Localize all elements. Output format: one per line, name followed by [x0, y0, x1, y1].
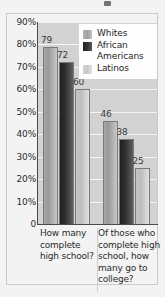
y-axis-tick-60: 60% — [2, 84, 36, 94]
y-axis-tick-90: 90% — [2, 17, 36, 27]
y-axis-tick-80: 80% — [2, 39, 36, 49]
bar-group-0-series-1 — [59, 62, 74, 224]
y-axis-tick-40: 40% — [2, 129, 36, 139]
chart-legend: WhitesAfricanAmericansLatinos — [79, 24, 157, 79]
y-axis-tick-20: 20% — [2, 174, 36, 184]
legend-label-0: Whites — [97, 28, 127, 39]
y-axis-tick-10: 10% — [2, 197, 36, 207]
chart-figure: 90%80%70%60%50%40%30%20%10%0 79726046382… — [0, 0, 165, 297]
legend-label-1: AfricanAmericans — [97, 40, 144, 62]
x-axis-category-labels: How many complete high school? Of those … — [38, 228, 158, 294]
y-axis-tick-30: 30% — [2, 152, 36, 162]
bar-value-label-1-1: 38 — [117, 127, 128, 137]
bar-group-0-series-2 — [75, 89, 90, 224]
y-axis-tick-labels: 90%80%70%60%50%40%30%20%10%0 — [0, 0, 36, 297]
title-artifact — [104, 1, 111, 6]
legend-swatch-icon-1 — [83, 42, 92, 51]
bar-group-1-series-0 — [103, 121, 118, 224]
bar-group-0-series-0 — [43, 47, 58, 224]
legend-label-2: Latinos — [97, 63, 129, 74]
gridline-90 — [38, 22, 157, 23]
x-axis-label-group-1: Of those who complete high school, how m… — [98, 228, 160, 286]
y-axis-tick-0: 0 — [2, 219, 36, 229]
x-axis-line — [37, 224, 158, 225]
bar-group-1-series-1 — [119, 139, 134, 224]
bar-value-label-0-1: 72 — [57, 50, 68, 60]
legend-item-1: AfricanAmericans — [83, 40, 154, 62]
legend-item-0: Whites — [83, 28, 154, 39]
bar-group-1-series-2 — [135, 168, 150, 224]
bar-value-label-0-0: 79 — [41, 35, 52, 45]
y-axis-tick-50: 50% — [2, 107, 36, 117]
legend-item-2: Latinos — [83, 63, 154, 74]
y-axis-tick-70: 70% — [2, 62, 36, 72]
x-axis-label-group-0: How many complete high school? — [40, 228, 98, 263]
bar-value-label-1-2: 25 — [133, 156, 144, 166]
legend-swatch-icon-0 — [83, 30, 92, 39]
y-axis-line — [37, 22, 38, 225]
bar-value-label-1-0: 46 — [101, 109, 112, 119]
legend-swatch-icon-2 — [83, 65, 92, 74]
